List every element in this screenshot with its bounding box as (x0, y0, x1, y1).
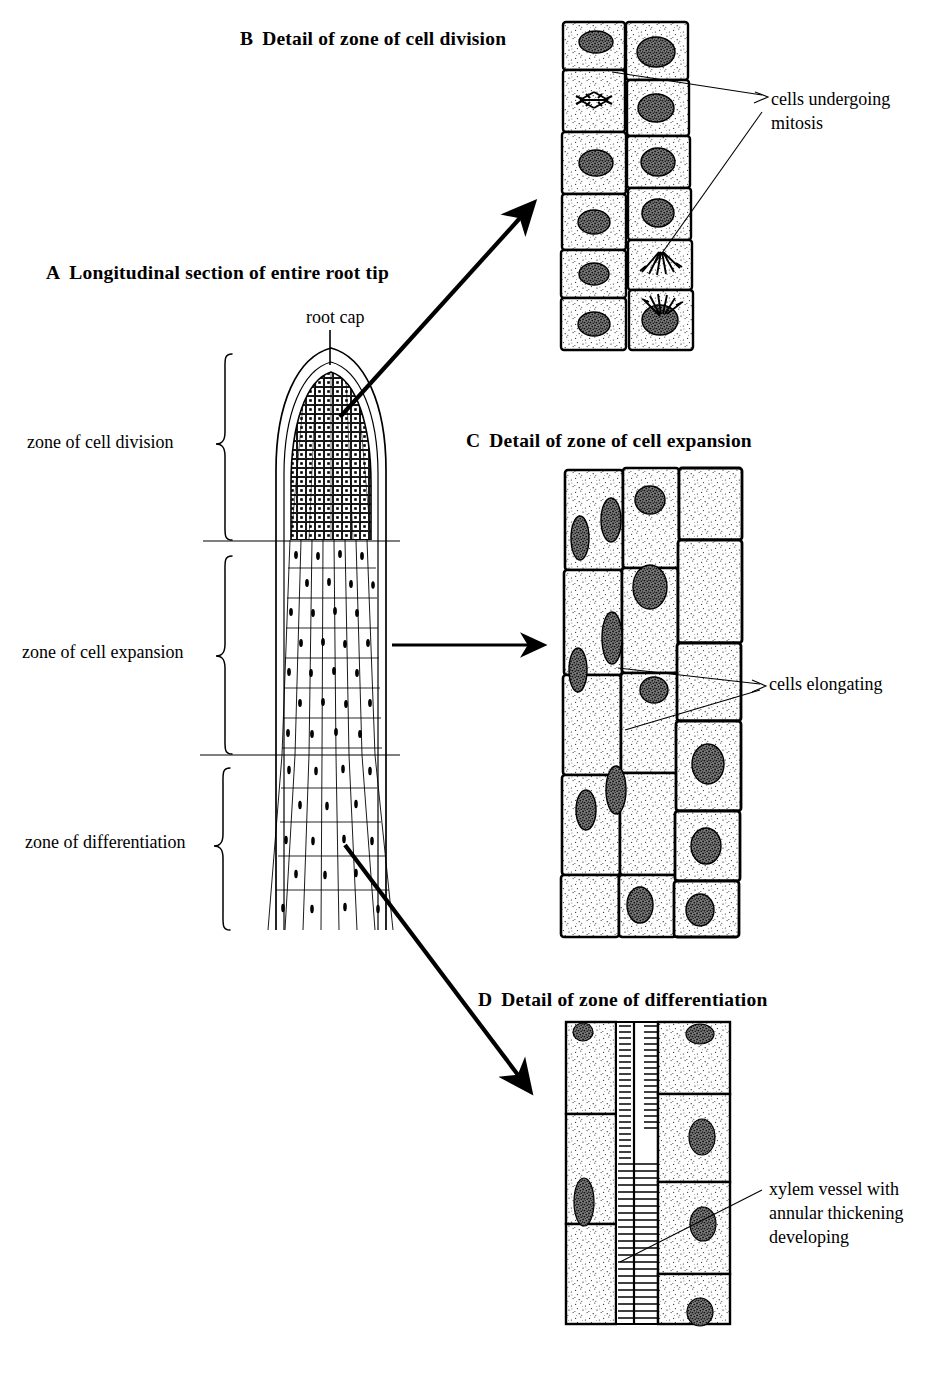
figure-drawing (0, 0, 935, 1374)
zone-braces (214, 354, 232, 930)
differentiation-zone-cells (268, 755, 393, 930)
b-left-cell-column (561, 22, 626, 350)
panel-d-drawing (566, 1022, 762, 1326)
d-left-cell-column (566, 1022, 616, 1324)
panel-b-drawing (561, 22, 768, 350)
brace-zone-of-cell-expansion (216, 556, 232, 754)
b-right-cell-column (626, 22, 693, 350)
arrow-a-to-d (345, 845, 518, 1075)
panel-a-root-tip-drawing (200, 330, 400, 930)
expansion-zone-cells (282, 540, 382, 755)
xylem-vessel (616, 1022, 658, 1324)
brace-zone-of-cell-division (216, 354, 232, 540)
arrow-a-to-b (340, 218, 520, 417)
d-right-cell-column (658, 1022, 730, 1326)
brace-zone-of-differentiation (214, 768, 230, 930)
panel-c-drawing (561, 468, 766, 937)
